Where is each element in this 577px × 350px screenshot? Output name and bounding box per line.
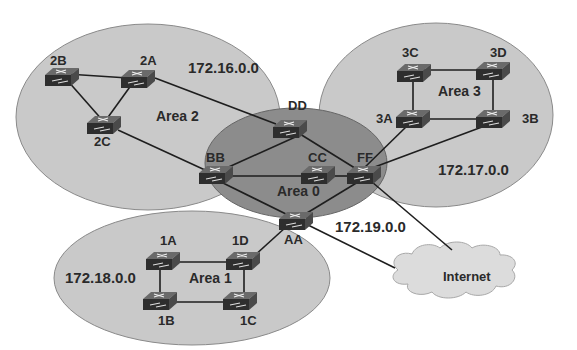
router-cc-label: CC: [308, 150, 327, 165]
router-3c-icon[interactable]: [397, 64, 431, 82]
router-cc-icon[interactable]: [301, 166, 335, 184]
router-1a-icon[interactable]: [146, 252, 180, 270]
router-2a-icon[interactable]: [121, 70, 155, 88]
internet-label: Internet: [443, 269, 491, 284]
router-dd-label: DD: [288, 98, 307, 113]
router-ff-label: FF: [357, 150, 373, 165]
area-0-label: Area 0: [277, 183, 320, 199]
router-1d-icon[interactable]: [226, 252, 260, 270]
router-1c-label: 1C: [240, 313, 257, 328]
router-dd-icon[interactable]: [273, 120, 307, 138]
area-2-label: Area 2: [156, 108, 199, 124]
network-diagram: 2B 2A 2C 3C 3D 3A 3B 1A 1D 1B 1C DD BB C…: [0, 0, 577, 350]
router-bb-icon[interactable]: [199, 166, 233, 184]
router-1b-label: 1B: [158, 313, 175, 328]
router-aa-label: AA: [284, 232, 303, 247]
router-3b-icon[interactable]: [476, 110, 510, 128]
router-3b-label: 3B: [522, 111, 539, 126]
router-2c-label: 2C: [94, 134, 111, 149]
router-aa-icon[interactable]: [279, 212, 313, 230]
area-3-label: Area 3: [438, 83, 481, 99]
area-1-network-label: 172.18.0.0: [65, 269, 136, 286]
router-1c-icon[interactable]: [223, 292, 257, 310]
area-2-network-label: 172.16.0.0: [188, 59, 259, 76]
area-1-label: Area 1: [189, 270, 232, 286]
router-bb-label: BB: [206, 150, 225, 165]
router-2c-icon[interactable]: [87, 116, 121, 134]
router-2b-label: 2B: [50, 53, 67, 68]
router-ff-icon[interactable]: [347, 166, 381, 184]
router-1b-icon[interactable]: [143, 292, 177, 310]
router-3a-label: 3A: [376, 111, 393, 126]
router-2b-icon[interactable]: [45, 68, 79, 86]
router-3a-icon[interactable]: [396, 110, 430, 128]
router-3d-icon[interactable]: [476, 62, 510, 80]
area-0-network-label: 172.19.0.0: [335, 218, 406, 235]
router-1a-label: 1A: [160, 233, 177, 248]
area-3-network-label: 172.17.0.0: [438, 161, 509, 178]
router-3c-label: 3C: [402, 45, 419, 60]
router-3d-label: 3D: [490, 45, 507, 60]
router-1d-label: 1D: [232, 233, 249, 248]
router-2a-label: 2A: [140, 53, 157, 68]
